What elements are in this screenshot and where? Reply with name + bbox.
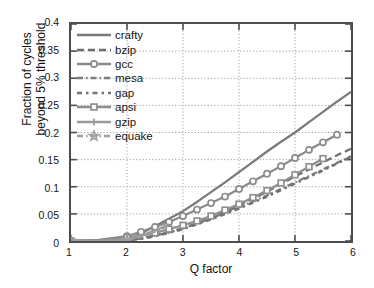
data-point-marker-circle bbox=[264, 171, 270, 177]
data-point-marker-square bbox=[278, 180, 284, 186]
y-axis-tick-label: 0 bbox=[53, 238, 59, 248]
legend-label: gcc bbox=[115, 58, 133, 70]
legend-label: bzip bbox=[115, 44, 136, 56]
legend-item-gzip[interactable]: gzip bbox=[76, 114, 153, 128]
data-point-marker-square bbox=[264, 188, 270, 194]
data-point-marker-square bbox=[91, 104, 97, 110]
y-axis-tick-label: 0.05 bbox=[39, 210, 59, 220]
x-axis-tick-label: 4 bbox=[236, 247, 242, 258]
data-point-marker-square bbox=[208, 213, 214, 219]
series-gcc bbox=[71, 132, 340, 241]
y-axis-tick-label: 0.35 bbox=[39, 45, 59, 55]
data-point-marker-square bbox=[180, 222, 186, 228]
x-axis-tick-label: 2 bbox=[123, 247, 129, 258]
chart-legend: craftybzipgccmesagapapsigzipequake bbox=[74, 26, 156, 145]
data-point-marker-plus bbox=[91, 118, 98, 125]
x-axis-tick-label: 3 bbox=[180, 247, 186, 258]
data-point-marker-circle bbox=[306, 147, 312, 153]
legend-item-gcc[interactable]: gcc bbox=[76, 57, 153, 71]
legend-label: gzip bbox=[115, 116, 136, 128]
series-bzip bbox=[71, 149, 351, 241]
legend-line-sample-bzip bbox=[76, 43, 112, 57]
data-point-marker-circle bbox=[194, 206, 200, 212]
legend-label: crafty bbox=[115, 29, 143, 41]
legend-label: apsi bbox=[115, 101, 136, 113]
data-point-marker-square bbox=[320, 156, 326, 162]
data-point-marker-square bbox=[194, 218, 200, 224]
legend-item-equake[interactable]: equake bbox=[76, 129, 153, 143]
x-axis-tick-label: 6 bbox=[350, 247, 356, 258]
data-point-marker-circle bbox=[320, 139, 326, 145]
legend-item-gap[interactable]: gap bbox=[76, 86, 153, 100]
data-point-marker-circle bbox=[180, 213, 186, 219]
legend-label: mesa bbox=[115, 72, 143, 84]
legend-line-sample-mesa bbox=[76, 71, 112, 85]
data-point-marker-circle bbox=[278, 163, 284, 169]
legend-item-mesa[interactable]: mesa bbox=[76, 71, 153, 85]
series-line-apsi bbox=[71, 159, 323, 241]
y-axis-tick-label: 0.4 bbox=[44, 17, 59, 27]
legend-line-sample-apsi bbox=[76, 100, 112, 114]
y-axis-tick-label: 0.15 bbox=[39, 155, 59, 165]
legend-label: equake bbox=[115, 130, 153, 142]
data-point-marker-square bbox=[306, 164, 312, 170]
x-axis-tick-label: 1 bbox=[66, 247, 72, 258]
legend-label: gap bbox=[115, 87, 134, 99]
legend-line-sample-gcc bbox=[76, 57, 112, 71]
legend-line-sample-crafty bbox=[76, 28, 112, 42]
legend-item-apsi[interactable]: apsi bbox=[76, 100, 153, 114]
data-point-marker-square bbox=[292, 172, 298, 178]
legend-line-sample-equake bbox=[76, 129, 112, 143]
series-line-bzip bbox=[71, 149, 351, 241]
y-axis-tick-label: 0.25 bbox=[39, 100, 59, 110]
y-axis-tick-label: 0.3 bbox=[44, 72, 59, 82]
data-point-marker-circle bbox=[250, 178, 256, 184]
x-axis-tick-label: 5 bbox=[293, 247, 299, 258]
legend-item-bzip[interactable]: bzip bbox=[76, 42, 153, 56]
y-axis-tick-label: 0.1 bbox=[44, 183, 59, 193]
data-point-marker-circle bbox=[292, 155, 298, 161]
legend-line-sample-gap bbox=[76, 86, 112, 100]
data-point-marker-circle bbox=[91, 61, 97, 67]
data-point-marker-square bbox=[236, 201, 242, 207]
series-apsi bbox=[71, 156, 326, 241]
y-axis-tick-label: 0.2 bbox=[44, 128, 59, 138]
y-axis-tick-labels: 00.050.10.150.20.250.30.350.4 bbox=[0, 22, 64, 243]
x-axis-tick-labels: 123456 bbox=[69, 247, 353, 263]
x-axis-title: Q factor bbox=[69, 262, 353, 276]
data-point-marker-square bbox=[250, 195, 256, 201]
legend-item-crafty[interactable]: crafty bbox=[76, 28, 153, 42]
data-point-marker-square bbox=[222, 207, 228, 213]
data-point-marker-circle bbox=[236, 186, 242, 192]
series-line-gcc bbox=[71, 135, 337, 241]
legend-line-sample-gzip bbox=[76, 115, 112, 129]
data-point-marker-circle bbox=[334, 132, 340, 138]
data-point-marker-circle bbox=[208, 200, 214, 206]
data-point-marker-circle bbox=[222, 193, 228, 199]
chart-figure: Fraction of cycles beyond 5% threshold 0… bbox=[0, 0, 374, 288]
